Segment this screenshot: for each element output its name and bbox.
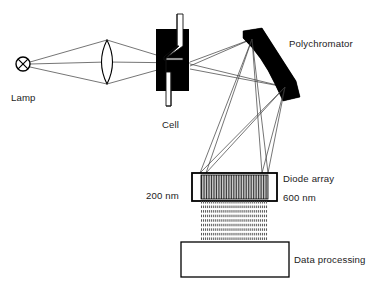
diode-element: [240, 175, 241, 199]
diode-element: [243, 175, 244, 199]
ray-grating-top-to-detector-left-b: [206, 39, 252, 173]
optical-diagram: Lamp Cell Polychromator Diode array 200 …: [0, 0, 384, 286]
connector-gap: [201, 213, 268, 215]
diode-array-elements: [201, 175, 268, 199]
connector-gap: [201, 204, 268, 206]
label-wavelength-low: 200 nm: [146, 190, 179, 201]
diode-element: [258, 175, 259, 199]
ray-optical-axis-left: [30, 62, 107, 64]
diode-element: [214, 175, 215, 199]
lamp-symbol: [16, 57, 30, 71]
diode-element: [263, 175, 264, 199]
connector-gap: [201, 226, 268, 228]
label-lamp: Lamp: [11, 92, 36, 103]
diode-element: [236, 175, 237, 199]
diode-element: [251, 175, 252, 199]
label-wavelength-high: 600 nm: [283, 192, 316, 203]
diode-element: [248, 175, 249, 199]
ray-grating-bottom-to-detector-right-b: [268, 87, 285, 173]
diode-element: [238, 175, 239, 199]
ray-lamp-to-lens-lower: [30, 67, 107, 84]
diode-element: [235, 175, 236, 199]
diagram-canvas: Lamp Cell Polychromator Diode array 200 …: [0, 0, 384, 286]
biconvex-lens-shape: [102, 40, 113, 84]
data-processing-box: [181, 242, 289, 277]
diode-element: [229, 175, 230, 199]
connector-gap: [201, 208, 268, 210]
diode-array-connector: [201, 201, 268, 242]
diode-element: [245, 175, 246, 199]
ray-cell-to-grating-top: [190, 39, 252, 62]
ray-grating-bottom-to-detector-left: [200, 87, 285, 173]
connector-gap: [201, 235, 268, 237]
diode-element: [266, 175, 267, 199]
diode-element: [253, 175, 254, 199]
diode-element: [260, 175, 261, 199]
diode-array-detector: [192, 173, 277, 201]
diode-element: [204, 175, 205, 199]
label-data-processing: Data processing: [294, 254, 366, 265]
diode-element: [261, 175, 262, 199]
connector-gap: [201, 217, 268, 219]
connector-gap: [201, 231, 268, 233]
diode-element: [219, 175, 220, 199]
diode-element: [203, 175, 204, 199]
diode-element: [221, 175, 222, 199]
label-cell: Cell: [162, 119, 179, 130]
diode-element: [224, 175, 225, 199]
diode-element: [226, 175, 227, 199]
sample-cell-assembly: [156, 14, 189, 106]
diode-element: [231, 175, 232, 199]
diode-element: [213, 175, 214, 199]
diode-element: [206, 175, 207, 199]
diode-element: [255, 175, 256, 199]
diode-element: [250, 175, 251, 199]
diode-element: [218, 175, 219, 199]
ray-lamp-to-lens-upper: [30, 40, 107, 62]
ray-cell-to-grating-top-b: [190, 39, 252, 66]
label-diode-array: Diode array: [283, 173, 334, 184]
diode-element: [228, 175, 229, 199]
diode-element: [216, 175, 217, 199]
connector-grid: [201, 201, 268, 242]
diode-element: [256, 175, 257, 199]
diode-element: [209, 175, 210, 199]
diode-element: [211, 175, 212, 199]
ray-grating-top-to-detector-right: [252, 39, 262, 173]
diode-element: [223, 175, 224, 199]
diode-element: [233, 175, 234, 199]
diode-element: [246, 175, 247, 199]
label-polychromator: Polychromator: [289, 38, 353, 49]
diode-element: [265, 175, 266, 199]
ray-grating-top-to-detector-left: [200, 39, 252, 173]
connector-gap: [201, 222, 268, 224]
data-processing-unit: [181, 242, 289, 277]
lens-symbol: [102, 40, 113, 84]
diode-element: [241, 175, 242, 199]
diode-element: [208, 175, 209, 199]
cell-flow-tube: [166, 14, 183, 106]
